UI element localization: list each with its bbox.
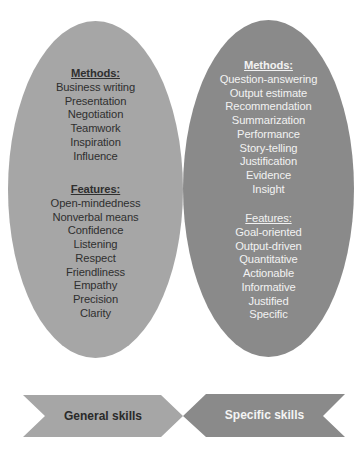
general-skills-label: General skills	[45, 409, 161, 423]
specific-skills-label: Specific skills	[206, 408, 323, 422]
chevron-arrows	[0, 0, 364, 455]
